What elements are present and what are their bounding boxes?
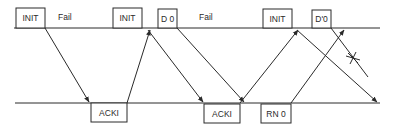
bottom-frame-box: RN 0 xyxy=(261,104,291,123)
message-arrow xyxy=(127,30,150,103)
fail-annotation: Fail xyxy=(199,12,213,22)
message-arrow xyxy=(45,28,89,102)
frame-label: INIT xyxy=(269,14,285,24)
timelines xyxy=(14,28,380,103)
lost-message-line xyxy=(331,28,368,77)
frame-label: INIT xyxy=(119,13,135,23)
frame-label: INIT xyxy=(22,13,38,23)
frame-boxes: INITINITD 0INITD'0ACKIACKIRN 0 xyxy=(16,8,331,123)
message-arrow xyxy=(148,30,203,102)
frame-label: ACKI xyxy=(212,109,232,119)
top-frame-box: INIT xyxy=(113,8,142,28)
top-frame-box: INIT xyxy=(263,9,292,28)
lost-frame-star-icon xyxy=(346,52,360,64)
message-arrows xyxy=(45,28,377,103)
top-frame-box: D'0 xyxy=(312,10,331,28)
top-frame-box: D 0 xyxy=(158,9,177,28)
bottom-frame-box: ACKI xyxy=(91,103,127,122)
frame-label: ACKI xyxy=(99,108,119,118)
message-arrow xyxy=(240,30,298,103)
top-frame-box: INIT xyxy=(16,8,45,28)
frame-label: RN 0 xyxy=(266,109,286,119)
fail-annotation: Fail xyxy=(58,12,72,22)
message-arrow xyxy=(291,30,344,103)
frame-label: D 0 xyxy=(161,14,175,24)
bottom-frame-box: ACKI xyxy=(204,104,240,123)
protocol-timing-diagram: INITINITD 0INITD'0ACKIACKIRN 0 FailFail xyxy=(0,0,394,131)
message-arrow xyxy=(297,30,377,102)
message-arrow xyxy=(177,28,244,102)
frame-label: D'0 xyxy=(315,14,328,24)
